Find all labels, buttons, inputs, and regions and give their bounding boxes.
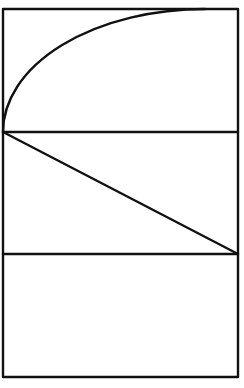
top-section-arc: [3, 9, 205, 132]
middle-section-diagonal: [3, 132, 238, 254]
geometric-diagram: [0, 0, 244, 388]
